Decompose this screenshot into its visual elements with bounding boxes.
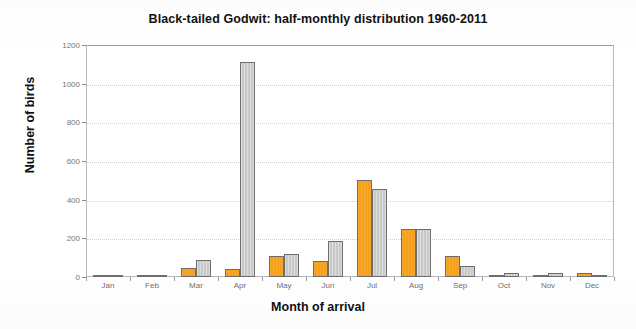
bar xyxy=(504,273,519,277)
x-tick-mark xyxy=(482,277,483,281)
x-tick-mark xyxy=(218,277,219,281)
bar-group xyxy=(570,45,614,277)
bar-group xyxy=(394,45,438,277)
bar xyxy=(240,62,255,277)
bar xyxy=(445,256,460,277)
bar xyxy=(548,273,563,277)
bar xyxy=(401,229,416,277)
bar xyxy=(93,275,108,278)
bar xyxy=(108,275,123,278)
bar-group xyxy=(306,45,350,277)
bar-group xyxy=(438,45,482,277)
y-tick-label: 400 xyxy=(20,195,80,204)
chart-title: Black-tailed Godwit: half-monthly distri… xyxy=(0,12,636,26)
x-tick-mark xyxy=(86,277,87,281)
y-tick-label: 800 xyxy=(20,118,80,127)
bar xyxy=(577,273,592,277)
bar xyxy=(181,268,196,277)
x-tick-mark xyxy=(570,277,571,281)
bar-group xyxy=(174,45,218,277)
bar-series-layer xyxy=(86,45,614,277)
bar-group xyxy=(482,45,526,277)
bar-group xyxy=(262,45,306,277)
bar-group xyxy=(350,45,394,277)
x-tick-mark xyxy=(306,277,307,281)
x-tick-mark xyxy=(350,277,351,281)
bar xyxy=(533,275,548,278)
bar xyxy=(225,269,240,277)
bar xyxy=(269,256,284,277)
x-tick-mark xyxy=(614,277,615,281)
bar xyxy=(152,275,167,278)
bar xyxy=(489,275,504,278)
x-tick-mark xyxy=(438,277,439,281)
y-tick-label: 1000 xyxy=(20,79,80,88)
bar xyxy=(284,254,299,277)
x-tick-mark xyxy=(130,277,131,281)
bar-group xyxy=(86,45,130,277)
bar-group xyxy=(130,45,174,277)
bar xyxy=(416,229,431,277)
bar xyxy=(460,266,475,277)
x-tick-mark xyxy=(526,277,527,281)
y-tick-label: 0 xyxy=(20,273,80,282)
bar xyxy=(357,180,372,277)
chart-figure: Black-tailed Godwit: half-monthly distri… xyxy=(0,0,636,329)
bar xyxy=(137,275,152,278)
y-tick-label: 1200 xyxy=(20,41,80,50)
bar-group xyxy=(526,45,570,277)
x-axis-title: Month of arrival xyxy=(0,300,636,314)
x-tick-mark xyxy=(394,277,395,281)
bar-group xyxy=(218,45,262,277)
bar xyxy=(592,275,607,278)
x-tick-label: Dec xyxy=(564,281,620,290)
bar xyxy=(313,261,328,277)
x-tick-mark xyxy=(262,277,263,281)
bar xyxy=(372,189,387,277)
x-tick-mark xyxy=(174,277,175,281)
bar xyxy=(196,260,211,277)
bar xyxy=(328,241,343,277)
y-tick-label: 600 xyxy=(20,157,80,166)
y-tick-label: 200 xyxy=(20,234,80,243)
